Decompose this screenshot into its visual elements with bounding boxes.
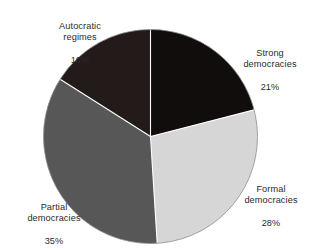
pie-label-formal-democracies-name: Formal democracies xyxy=(222,184,320,207)
pie-label-strong-democracies-name: Strong democracies xyxy=(220,48,320,71)
pie-label-strong-democracies: Strong democracies 21% xyxy=(220,36,320,106)
pie-label-partial-democracies: Partial democracies 35% xyxy=(4,190,104,252)
pie-label-partial-democracies-name: Partial democracies xyxy=(4,202,104,225)
pie-label-autocratic-regimes-name: Autocratic regimes xyxy=(28,21,132,44)
pie-label-strong-democracies-value: 21% xyxy=(220,82,320,94)
pie-label-partial-democracies-value: 35% xyxy=(4,236,104,248)
pie-label-formal-democracies-value: 28% xyxy=(222,218,320,230)
pie-chart-figure: Autocratic regimes 16% Strong democracie… xyxy=(0,0,322,252)
pie-label-autocratic-regimes: Autocratic regimes 16% xyxy=(28,9,132,79)
pie-label-autocratic-regimes-value: 16% xyxy=(28,55,132,67)
pie-label-formal-democracies: Formal democracies 28% xyxy=(222,172,320,242)
